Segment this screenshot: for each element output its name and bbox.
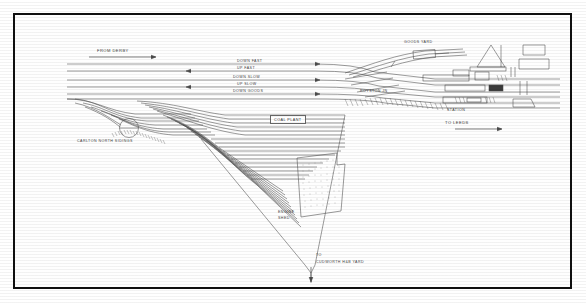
picture-frame: FROM DERBY DOWN FAST UP FAST DOWN SLOW U… bbox=[13, 13, 572, 289]
label-up-fast: UP FAST bbox=[237, 66, 255, 70]
main-line-down-goods bbox=[67, 94, 560, 103]
label-down-goods: DOWN GOODS bbox=[233, 89, 263, 93]
label-from-derby: FROM DERBY bbox=[97, 48, 129, 53]
arrow-to-cudworth bbox=[309, 267, 313, 282]
label-to-leeds: TO LEEDS bbox=[445, 120, 469, 125]
label-coal-plant: COAL PLANT bbox=[270, 115, 306, 124]
label-to-cudworth-line2: CUDWORTH H&B YARD bbox=[316, 260, 364, 264]
carlton-turntable bbox=[75, 103, 139, 138]
track-diagram-svg bbox=[15, 15, 570, 287]
arrow-to-leeds bbox=[455, 127, 502, 131]
central-siding-fan bbox=[137, 101, 345, 227]
diagram-page: FROM DERBY DOWN FAST UP FAST DOWN SLOW U… bbox=[0, 0, 586, 303]
label-up-slow: UP SLOW bbox=[237, 82, 257, 86]
label-engine-shed-line1: ENGINE bbox=[278, 210, 294, 214]
goods-yard-group bbox=[345, 49, 467, 77]
label-down-fast: DOWN FAST bbox=[237, 59, 262, 63]
main-line-up-fast bbox=[67, 71, 560, 85]
label-royston-junction: ROYSTON JN bbox=[360, 89, 388, 93]
label-station: STATION bbox=[447, 108, 465, 112]
label-engine-shed-line2: SHED bbox=[278, 216, 290, 220]
label-goods-yard: GOODS YARD bbox=[404, 40, 433, 44]
main-line-down-slow bbox=[67, 80, 560, 92]
engine-shed-block bbox=[297, 153, 345, 217]
main-line-down-fast bbox=[67, 64, 560, 79]
label-to-cudworth-line1: TO bbox=[316, 253, 322, 257]
label-down-slow: DOWN SLOW bbox=[233, 75, 260, 79]
label-carlton-north-sidings: CARLTON NORTH SIDINGS bbox=[77, 139, 133, 143]
arrow-from-derby bbox=[89, 55, 156, 59]
station-group bbox=[423, 45, 549, 107]
